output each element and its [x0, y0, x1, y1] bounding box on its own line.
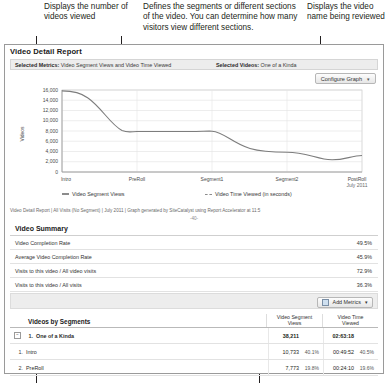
summary-row: Average Video Completion Rate 45.9% [10, 250, 378, 264]
summary-row-label: Visits to this video / All visits [15, 282, 82, 288]
video-summary-section: Video Summary Video Completion Rate 49.5… [10, 223, 378, 292]
column-header-video-segment-views[interactable]: Video Segment Views [266, 314, 322, 327]
legend-swatch-dashed-icon [205, 194, 212, 195]
chart-y-tick-labels: 0 2,000 4,000 6,000 8,000 10,000 12,000 … [43, 87, 59, 175]
svg-text:4,000: 4,000 [45, 148, 58, 154]
summary-row: Visits to this video / All video visits … [10, 264, 378, 278]
table-cell-views: 7,773 19.8% [268, 360, 323, 375]
column-header-name: Videos by Segments [10, 318, 266, 327]
svg-text:Segment2: Segment2 [276, 176, 299, 182]
svg-text:2,000: 2,000 [45, 158, 58, 164]
table-cell-time: 00:49:52 40.5% [323, 344, 378, 359]
svg-text:10,000: 10,000 [43, 117, 59, 123]
annotation-videos-viewed: Displays the number of videos viewed [44, 2, 129, 23]
cell-percent: 19.6% [357, 365, 374, 371]
video-segment-chart: 0 2,000 4,000 6,000 8,000 10,000 12,000 … [10, 86, 378, 191]
configure-graph-label: Configure Graph [321, 76, 362, 82]
cell-value: 10,733 [283, 349, 300, 355]
cell-percent: 40.1% [302, 349, 319, 355]
summary-row-value: 49.5% [357, 240, 372, 246]
svg-text:Intro: Intro [61, 176, 71, 182]
svg-text:8,000: 8,000 [45, 128, 58, 134]
legend-item-segment-views: Video Segment Views [62, 191, 125, 197]
table-cell-time: 02:63:18 [323, 328, 378, 343]
svg-text:0: 0 [55, 169, 58, 175]
summary-row-value: 45.9% [357, 254, 372, 260]
svg-text:Segment1: Segment1 [201, 176, 224, 182]
cell-value: 7,773 [286, 365, 300, 371]
add-metrics-label: Add Metrics [333, 299, 361, 305]
legend-label-time-viewed: Video Time Viewed (in seconds) [215, 191, 292, 197]
row-label: PreRoll [26, 365, 44, 371]
table-row[interactable]: − 1. One of a Kinda 38,211 02:63:18 [10, 328, 378, 344]
chart-y-axis-label: Videos [19, 126, 25, 142]
row-rank: 1. [14, 349, 23, 355]
row-label: One of a Kinda [36, 333, 74, 339]
row-rank: 1. [24, 333, 33, 339]
summary-row: Video Completion Rate 49.5% [10, 236, 378, 250]
table-cell-views: 38,211 [268, 328, 323, 343]
cell-value: 00:24:10 [333, 365, 354, 371]
annotation-segments: Defines the segments or different sectio… [143, 2, 298, 33]
svg-text:12,000: 12,000 [43, 107, 59, 113]
report-footnote: Video Detail Report | All Visits (No Seg… [10, 208, 378, 213]
selection-bar: Selected Metrics: Video Segment Views an… [10, 59, 378, 70]
chart-svg: 0 2,000 4,000 6,000 8,000 10,000 12,000 … [10, 86, 378, 191]
legend-item-time-viewed: Video Time Viewed (in seconds) [205, 191, 292, 197]
svg-text:14,000: 14,000 [43, 97, 59, 103]
summary-row-label: Visits to this video / All video visits [15, 268, 96, 274]
videos-by-segments-table: Videos by Segments Video Segment Views V… [10, 311, 378, 376]
table-cell-time: 00:24:10 19.6% [323, 360, 378, 375]
table-cell-name: − 1. One of a Kinda [10, 332, 268, 339]
row-label: Intro [26, 349, 37, 355]
summary-row-label: Average Video Completion Rate [15, 254, 92, 260]
summary-row: Visits to this video / All visits 36.3% [10, 278, 378, 292]
cell-value: 38,211 [283, 333, 299, 339]
cell-value: 02:63:18 [332, 333, 354, 339]
page-title: Video Detail Report [10, 47, 82, 56]
row-rank: 2. [14, 365, 23, 371]
selected-metrics-value: Video Segment Views and Video Time Viewe… [61, 62, 171, 68]
metrics-toolbar: Add Metrics ▾ [10, 293, 378, 309]
table-cell-name: 2. PreRoll [10, 365, 268, 371]
add-metrics-icon [322, 299, 329, 306]
legend-swatch-icon [62, 193, 69, 195]
chevron-down-icon: ▾ [365, 299, 368, 305]
column-header-line2: Viewed [323, 320, 378, 326]
page-number: -40- [5, 216, 383, 221]
selected-videos: Selected Videos: One of a Kinda [216, 62, 297, 68]
chevron-down-icon: ▾ [367, 76, 370, 82]
video-detail-report-panel: Video Detail Report Selected Metrics: Vi… [4, 44, 384, 374]
cell-percent: 19.8% [302, 365, 319, 371]
table-row[interactable]: 1. Intro 10,733 40.1% 00:49:52 40.5% [10, 344, 378, 360]
table-cell-views: 10,733 40.1% [268, 344, 323, 359]
svg-text:PreRoll: PreRoll [129, 176, 145, 182]
legend-label-segment-views: Video Segment Views [72, 191, 125, 197]
summary-row-value: 36.3% [357, 282, 372, 288]
video-summary-heading: Video Summary [10, 223, 378, 236]
column-header-video-time-viewed[interactable]: Video Time Viewed [322, 314, 378, 327]
summary-row-label: Video Completion Rate [15, 240, 70, 246]
expander-icon[interactable]: − [14, 332, 21, 339]
selected-metrics-label: Selected Metrics: [15, 62, 59, 68]
table-row[interactable]: 2. PreRoll 7,773 19.8% 00:24:10 19.6% [10, 360, 378, 376]
svg-text:6,000: 6,000 [45, 138, 58, 144]
column-header-line2: Views [267, 320, 322, 326]
svg-text:July 2011: July 2011 [346, 182, 367, 188]
selected-videos-value: One of a Kinda [261, 62, 297, 68]
annotation-video-name: Displays the video name being reviewed [307, 2, 385, 23]
selected-metrics: Selected Metrics: Video Segment Views an… [15, 62, 171, 68]
summary-row-value: 72.9% [357, 268, 372, 274]
svg-text:16,000: 16,000 [43, 87, 59, 93]
configure-graph-button[interactable]: Configure Graph ▾ [315, 73, 376, 84]
chart-legend: Video Segment Views Video Time Viewed (i… [10, 191, 378, 203]
cell-percent: 40.5% [357, 349, 374, 355]
selected-videos-label: Selected Videos: [216, 62, 259, 68]
chart-x-tick-labels: Intro PreRoll Segment1 Segment2 PostRoll… [61, 176, 368, 188]
add-metrics-button[interactable]: Add Metrics ▾ [317, 297, 373, 308]
table-cell-name: 1. Intro [10, 349, 268, 355]
table-header-row: Videos by Segments Video Segment Views V… [10, 311, 378, 328]
cell-value: 00:49:52 [333, 349, 354, 355]
